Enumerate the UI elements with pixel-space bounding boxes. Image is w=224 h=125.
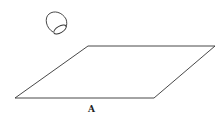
parallelogram-plane [15,46,215,98]
plane-label: A [88,104,95,114]
diagram-canvas [0,0,224,125]
bullet-object-icon [46,12,67,36]
